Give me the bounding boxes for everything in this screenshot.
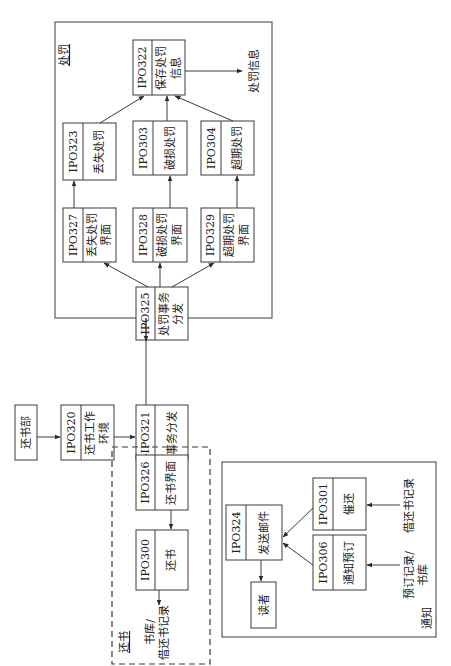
node-label-line1: 破损处罚: [163, 126, 177, 170]
node-label-line2: 界面: [100, 224, 113, 246]
edge-325-327: [104, 263, 148, 287]
node-label: 还书部: [19, 416, 33, 449]
edge-323-322: [100, 96, 144, 123]
node-label-line1: 丢失处罚: [86, 213, 99, 257]
node-label-line1: 处罚事务: [158, 292, 171, 336]
reserve-input-line2: 书库: [417, 564, 430, 586]
node-label-line1: 还书: [165, 549, 178, 571]
node-label-line1: 保存处罚: [154, 46, 168, 90]
node-id: IPO323: [67, 131, 80, 173]
node-id: IPO320: [65, 412, 78, 454]
node-label-line2: 信息: [169, 57, 183, 79]
node-label: 读者: [257, 594, 271, 616]
node-ipo300[interactable]: IPO300 还书: [136, 530, 188, 590]
node-id: IPO322: [136, 47, 149, 89]
node-ipo325[interactable]: IPO325 处罚事务 分发: [136, 287, 188, 340]
node-label-line1: 丢失处罚: [93, 130, 106, 174]
node-label-line2: 界面: [238, 224, 251, 246]
return-output-line1: 书库/: [144, 619, 157, 645]
return-output-line2: 借还书记录: [158, 605, 171, 660]
node-ipo320[interactable]: IPO320 还书工作 环境: [61, 405, 114, 460]
edge-306-324: [283, 543, 313, 565]
node-label-line1: 超期处罚: [222, 213, 236, 257]
node-ipo322[interactable]: IPO322 保存处罚 信息: [133, 40, 185, 95]
ipo-diagram: 处罚 IPO322 保存处罚 信息 IPO323 丢失处罚 IPO303 破损处…: [0, 0, 451, 666]
edge-304-322: [175, 96, 233, 121]
node-ipo304[interactable]: IPO304 超期处罚: [201, 121, 254, 175]
node-ipo306[interactable]: IPO306 通知预订: [313, 535, 366, 590]
node-label-line2: 环境: [97, 422, 111, 444]
node-id: IPO329: [204, 214, 217, 256]
node-id: IPO306: [317, 542, 330, 584]
node-return-dept[interactable]: 还书部: [15, 405, 37, 460]
node-ipo328[interactable]: IPO328 破损处罚 界面: [133, 208, 187, 262]
edge-301-324: [283, 508, 313, 537]
node-id: IPO303: [137, 127, 150, 169]
node-id: IPO300: [139, 539, 152, 581]
node-ipo323[interactable]: IPO323 丢失处罚: [63, 123, 116, 180]
node-ipo301[interactable]: IPO301 催还: [313, 478, 366, 530]
node-ipo303[interactable]: IPO303 破损处罚: [133, 121, 187, 175]
node-id: IPO327: [67, 214, 80, 256]
node-ipo329[interactable]: IPO329 超期处罚 界面: [201, 208, 254, 262]
node-ipo324[interactable]: IPO324 发送邮件: [226, 505, 282, 560]
notice-group-title: 通知: [420, 607, 434, 629]
node-label-line1: 催还: [342, 493, 356, 515]
node-label-line1: 还书界面: [165, 461, 178, 505]
node-ipo327[interactable]: IPO327 丢失处罚 界面: [63, 208, 116, 262]
node-id: IPO301: [317, 483, 330, 525]
edge-325-329: [172, 263, 214, 287]
node-label-line1: 通知预订: [342, 541, 356, 585]
node-label-line1: 破损处罚: [155, 213, 169, 257]
reserve-input-line1: 预订记录/: [403, 551, 416, 599]
return-group-title: 还书: [118, 631, 131, 653]
node-id: IPO304: [205, 127, 218, 169]
node-id: IPO324: [230, 512, 243, 554]
node-label-line1: 事务分发: [165, 411, 179, 455]
node-label-line1: 发送邮件: [257, 511, 271, 555]
penalty-group-title: 处罚: [58, 44, 71, 66]
node-id: IPO326: [139, 462, 152, 504]
node-reader[interactable]: 读者: [251, 582, 276, 628]
node-id: IPO328: [137, 214, 150, 256]
penalty-output-label: 处罚信息: [247, 49, 261, 93]
node-label-line1: 超期处罚: [230, 126, 244, 170]
node-label-line1: 还书工作: [84, 411, 97, 455]
node-ipo321[interactable]: IPO321 事务分发: [136, 405, 188, 460]
node-label-line2: 界面: [171, 224, 184, 246]
node-ipo326[interactable]: IPO326 还书界面: [136, 455, 188, 510]
node-label-line2: 分发: [171, 303, 185, 325]
borrow-input-label: 借还书记录: [403, 478, 416, 533]
